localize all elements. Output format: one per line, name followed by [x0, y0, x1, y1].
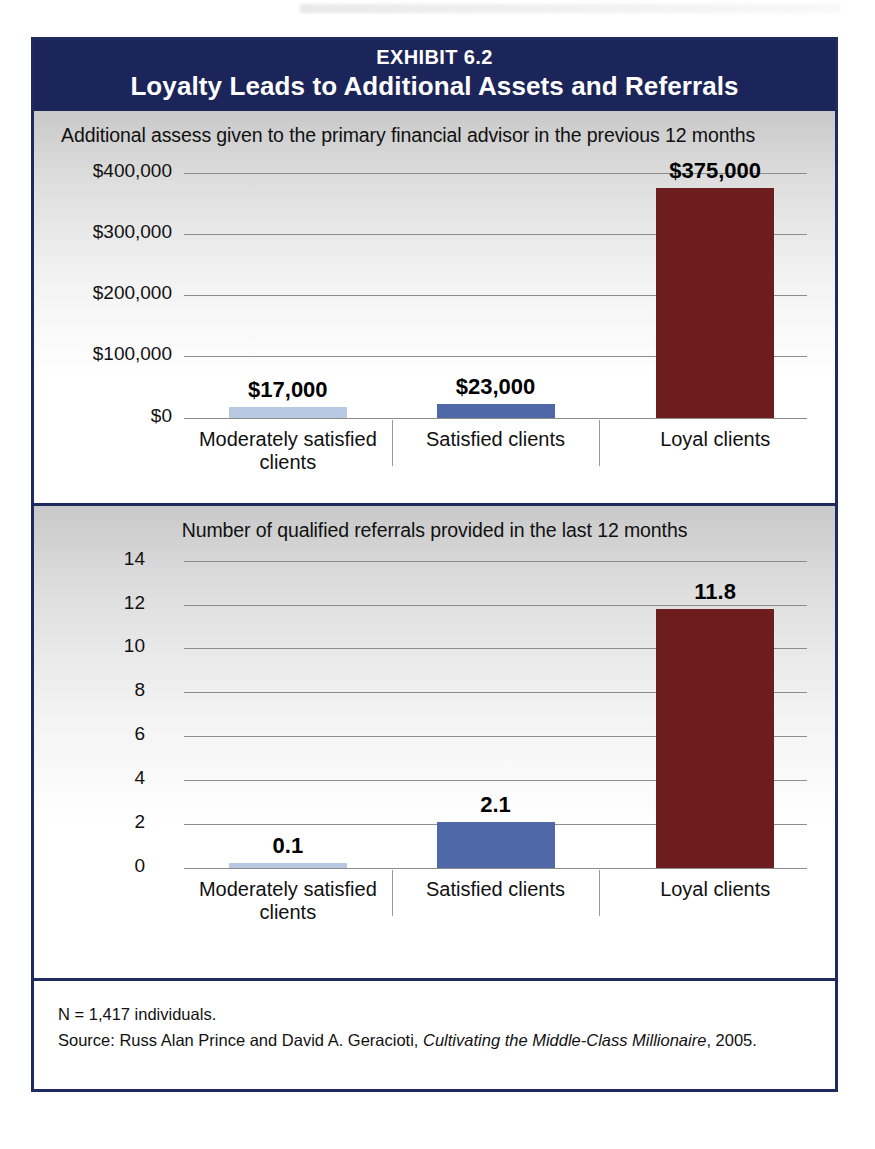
- bar-3: [656, 188, 774, 418]
- bar-2: [437, 822, 555, 868]
- chart-panel-referrals: Number of qualified referrals provided i…: [34, 506, 835, 981]
- y-axis-tick-label: 0: [60, 855, 145, 877]
- bar-value-label-3: $375,000: [605, 158, 825, 184]
- gridline: [184, 561, 807, 562]
- chart-panel-assets: Additional assess given to the primary f…: [34, 111, 835, 506]
- y-axis-tick-label: $300,000: [60, 221, 172, 243]
- bar-1: [229, 407, 347, 417]
- source-book-title: Cultivating the Middle-Class Millionaire: [423, 1031, 706, 1049]
- category-label-2: Satisfied clients: [392, 878, 600, 901]
- exhibit-header: EXHIBIT 6.2 Loyalty Leads to Additional …: [34, 40, 835, 111]
- chart-1-category-axis: Moderately satisfied clientsSatisfied cl…: [184, 418, 807, 514]
- bar-value-label-1: 0.1: [178, 833, 398, 859]
- y-axis-tick-label: $200,000: [60, 282, 172, 304]
- y-axis-tick-label: 10: [60, 635, 145, 657]
- sample-size-note: N = 1,417 individuals.: [58, 1001, 835, 1028]
- category-label-1: Moderately satisfied clients: [184, 428, 392, 474]
- source-note: Source: Russ Alan Prince and David A. Ge…: [58, 1027, 835, 1054]
- chart-2-category-axis: Moderately satisfied clientsSatisfied cl…: [184, 868, 807, 964]
- bar-2: [437, 404, 555, 418]
- exhibit-number: EXHIBIT 6.2: [34, 47, 835, 69]
- category-separator: [599, 870, 600, 916]
- source-prefix: Source: Russ Alan Prince and David A. Ge…: [58, 1031, 423, 1049]
- y-axis-tick-label: $400,000: [60, 160, 172, 182]
- exhibit-footnote: N = 1,417 individuals. Source: Russ Alan…: [34, 981, 835, 1054]
- bar-value-label-1: $17,000: [178, 377, 398, 403]
- category-label-3: Loyal clients: [611, 878, 819, 901]
- bar-3: [656, 609, 774, 868]
- y-axis-tick-label: 12: [60, 592, 145, 614]
- y-axis-tick-label: 2: [60, 811, 145, 833]
- category-separator: [392, 420, 393, 466]
- category-label-1: Moderately satisfied clients: [184, 878, 392, 924]
- category-label-3: Loyal clients: [611, 428, 819, 451]
- y-axis-tick-label: 8: [60, 679, 145, 701]
- bar-value-label-3: 11.8: [605, 579, 825, 605]
- exhibit-figure: EXHIBIT 6.2 Loyalty Leads to Additional …: [31, 37, 838, 1092]
- y-axis-tick-label: $100,000: [60, 343, 172, 365]
- chart-2-plot-area: 141210864200.12.111.8: [34, 561, 835, 868]
- exhibit-title: Loyalty Leads to Additional Assets and R…: [34, 72, 835, 100]
- category-separator: [599, 420, 600, 466]
- source-suffix: , 2005.: [706, 1031, 756, 1049]
- chart-1-title: Additional assess given to the primary f…: [34, 111, 835, 147]
- y-axis-tick-label: 6: [60, 723, 145, 745]
- bar-value-label-2: $23,000: [386, 374, 606, 400]
- scan-artifact: [300, 4, 840, 13]
- category-separator: [392, 870, 393, 916]
- chart-1-plot-area: $400,000$300,000$200,000$100,000$0$17,00…: [34, 173, 835, 418]
- bar-value-label-2: 2.1: [386, 792, 606, 818]
- y-axis-tick-label: 4: [60, 767, 145, 789]
- y-axis-tick-label: 14: [60, 548, 145, 570]
- category-label-2: Satisfied clients: [392, 428, 600, 451]
- y-axis-tick-label: $0: [60, 405, 172, 427]
- chart-2-title: Number of qualified referrals provided i…: [34, 506, 835, 542]
